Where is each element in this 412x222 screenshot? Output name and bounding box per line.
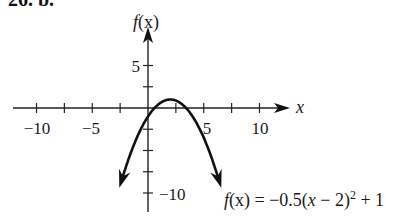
function-graph: −10 −5 5 10 5 −10 x f(x) f(x) = −0.5(x −… [0,0,412,222]
x-axis-label: x [295,97,304,117]
y-axis [143,27,153,212]
y-tick-label-5: 5 [132,57,141,76]
x-tick-label-neg10: −10 [24,119,51,138]
y-tick-label-neg10: −10 [159,185,186,204]
function-equation: f(x) = −0.5(x − 2)2 + 1 [224,188,384,211]
y-axis-label: f(x) [133,12,159,33]
x-tick-label-10: 10 [252,119,269,138]
x-tick-label-neg5: −5 [82,119,100,138]
y-axis-label-arg: (x) [138,12,159,33]
